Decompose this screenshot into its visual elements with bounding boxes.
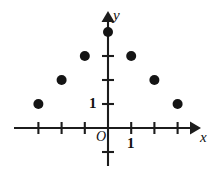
data-point bbox=[33, 99, 43, 109]
plot-canvas bbox=[0, 0, 215, 180]
origin-label: O bbox=[96, 130, 106, 144]
data-point bbox=[80, 51, 90, 61]
data-point bbox=[149, 75, 159, 85]
coordinate-plane-figure: x y O 1 1 bbox=[0, 0, 215, 180]
data-point bbox=[126, 51, 136, 61]
data-point bbox=[103, 27, 113, 37]
x-axis-label: x bbox=[200, 130, 207, 145]
data-point bbox=[173, 99, 183, 109]
y-axis-unit-label: 1 bbox=[89, 96, 97, 111]
y-axis-label: y bbox=[113, 8, 120, 23]
x-axis-unit-label: 1 bbox=[127, 136, 135, 151]
data-point bbox=[57, 75, 67, 85]
